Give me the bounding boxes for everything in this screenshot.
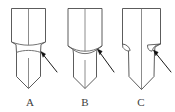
panel-c: C (123, 9, 172, 109)
panel-a: A (12, 9, 58, 109)
panel-b: B (68, 9, 114, 109)
figure-container: A B C (0, 0, 175, 112)
figure-label-a: A (26, 96, 34, 108)
figure-label-b: B (81, 96, 88, 108)
figure-label-c: C (137, 96, 144, 108)
tool-tip-comparison-figure: A B C (0, 0, 175, 112)
annotation-arrow-head-b (98, 49, 103, 55)
